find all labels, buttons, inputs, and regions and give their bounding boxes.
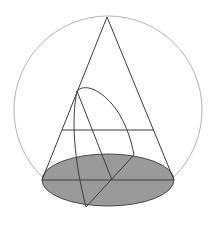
conic-section-curve — [77, 88, 134, 155]
cone-in-sphere-figure — [0, 0, 214, 225]
diagram-canvas — [0, 0, 214, 225]
